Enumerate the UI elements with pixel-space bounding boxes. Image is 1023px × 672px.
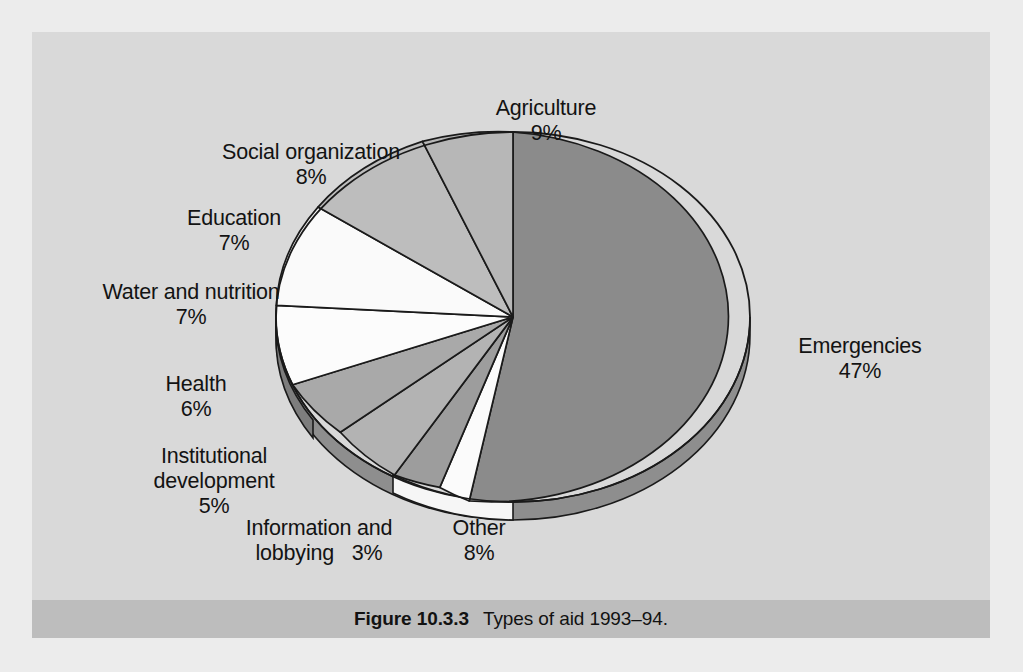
pie-label-emergencies: Emergencies 47%	[750, 334, 970, 384]
pie-label-other-text: Other	[453, 516, 506, 540]
pie-label-other-pct: 8%	[414, 541, 544, 566]
pie-label-health-text: Health	[166, 372, 227, 396]
pie-label-social-organization: Social organization 8%	[186, 140, 436, 190]
pie-label-emergencies-text: Emergencies	[798, 334, 921, 358]
pie-label-institutional-development: Institutional development 5%	[114, 444, 314, 519]
pie-label-agriculture-text: Agriculture	[496, 96, 597, 120]
pie-label-social-organization-pct: 8%	[186, 165, 436, 190]
pie-label-education-pct: 7%	[144, 231, 324, 256]
pie-chart-area: Agriculture 9% Social organization 8% Ed…	[32, 32, 990, 600]
pie-label-health: Health 6%	[128, 372, 264, 422]
pie-label-agriculture: Agriculture 9%	[446, 96, 646, 146]
pie-label-information-and-lobbying-line2: lobbying	[256, 541, 335, 565]
pie-label-information-and-lobbying-pct: 3%	[340, 541, 383, 565]
pie-label-social-organization-text: Social organization	[222, 140, 400, 164]
pie-label-water-and-nutrition: Water and nutrition 7%	[66, 280, 316, 330]
pie-label-agriculture-pct: 9%	[446, 121, 646, 146]
figure-panel: Agriculture 9% Social organization 8% Ed…	[32, 32, 990, 638]
pie-label-information-and-lobbying-line1: Information and	[246, 516, 392, 540]
pie-label-emergencies-pct: 47%	[750, 359, 970, 384]
figure-caption-bar: Figure 10.3.3Types of aid 1993–94.	[32, 600, 990, 638]
pie-label-health-pct: 6%	[128, 397, 264, 422]
pie-label-institutional-development-line2: development	[154, 469, 275, 493]
pie-label-education-text: Education	[187, 206, 281, 230]
pie-label-water-and-nutrition-pct: 7%	[66, 305, 316, 330]
figure-caption: Figure 10.3.3Types of aid 1993–94.	[354, 608, 668, 630]
pie-label-institutional-development-line1: Institutional	[161, 444, 267, 468]
pie-label-other: Other 8%	[414, 516, 544, 566]
pie-label-water-and-nutrition-text: Water and nutrition	[102, 280, 279, 304]
figure-caption-body: Types of aid 1993–94.	[469, 608, 668, 629]
figure-caption-label: Figure 10.3.3	[354, 608, 469, 629]
pie-label-information-and-lobbying: Information and lobbying 3%	[204, 516, 434, 566]
pie-label-education: Education 7%	[144, 206, 324, 256]
